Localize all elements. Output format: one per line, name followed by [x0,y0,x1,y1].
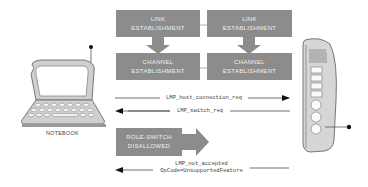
box-label-line1: Channel [234,58,265,67]
notebook-icon [22,45,107,127]
box-label-line2: Establishment [223,67,276,76]
box-label-line2: Establishment [131,24,184,33]
box-label-line2: Establishment [223,24,276,33]
message-lmp-switch-req: LMP_switch_req [170,107,230,114]
right-channel-establishment-box: Channel Establishment [207,53,292,80]
down-arrow-right [237,37,261,54]
box-label-line1: Channel [143,58,174,67]
box-label-line2: Establishment [131,67,184,76]
box-label-line2: Disallowed [128,142,170,151]
box-label-line1: Link [242,15,257,24]
role-switch-arrow [182,128,209,156]
notebook-label: NOTEBOOK [46,130,79,136]
phone-handset-icon [303,39,351,152]
message-line2: OpCode=UnsupportedFeature [153,167,250,174]
down-arrow-left [146,37,170,54]
box-label-line1: Role-Switch [126,133,171,142]
message-lmp-not-accepted: LMP_not_accepted OpCode=UnsupportedFeatu… [153,160,250,174]
left-channel-establishment-box: Channel Establishment [116,53,200,80]
left-link-establishment-box: Link Establishment [116,10,200,37]
role-switch-disallowed-box: Role-Switch Disallowed [116,128,182,156]
message-lmp-host-connection-req: LMP_host_connection_req [160,94,248,101]
right-link-establishment-box: Link Establishment [207,10,292,37]
box-label-line1: Link [151,15,166,24]
message-line1: LMP_not_accepted [153,160,250,167]
